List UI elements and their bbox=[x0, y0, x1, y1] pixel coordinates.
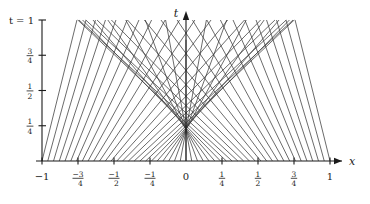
characteristic-line bbox=[220, 20, 289, 161]
characteristic-line bbox=[145, 20, 197, 161]
x-tick-label-numerator: −1 bbox=[144, 170, 155, 179]
x-tick-label-numerator: 3 bbox=[292, 170, 297, 179]
x-tick-label-numerator: −3 bbox=[72, 170, 83, 179]
x-tick-label-denominator: 4 bbox=[150, 179, 155, 188]
characteristic-line bbox=[192, 20, 278, 161]
x-tick-label-denominator: 4 bbox=[292, 179, 297, 188]
characteristic-line bbox=[78, 20, 227, 161]
characteristic-line bbox=[94, 20, 180, 161]
characteristic-line bbox=[140, 20, 293, 161]
t-tick-label-numerator: 3 bbox=[28, 47, 33, 56]
characteristic-line bbox=[79, 20, 232, 161]
t-tick-labels-group: 141234t = 1 bbox=[9, 15, 34, 136]
characteristic-line bbox=[161, 20, 267, 161]
x-tick-label-denominator: 2 bbox=[114, 179, 119, 188]
t-axis-label: t bbox=[174, 7, 179, 20]
characteristic-line bbox=[245, 20, 301, 161]
x-axis-group bbox=[36, 158, 342, 164]
characteristic-line bbox=[286, 20, 324, 161]
characteristic-line bbox=[108, 20, 209, 161]
characteristic-line bbox=[151, 20, 289, 161]
x-axis-label: x bbox=[349, 155, 356, 168]
characteristic-line bbox=[82, 20, 151, 161]
x-tick-label: 0 bbox=[183, 171, 189, 182]
characteristics-figure: −1−34−12−1401412341 141234t = 1 x t bbox=[0, 0, 370, 204]
x-tick-label-numerator: 1 bbox=[256, 170, 261, 179]
t-tick-label-denominator: 4 bbox=[28, 56, 33, 65]
t-tick-label-numerator: 1 bbox=[28, 117, 33, 126]
x-tick-label-numerator: −1 bbox=[108, 170, 119, 179]
x-tick-label: 1 bbox=[327, 171, 333, 182]
characteristic-line bbox=[48, 20, 86, 161]
characteristic-line bbox=[59, 20, 105, 161]
t-axis-arrow-icon bbox=[183, 11, 189, 20]
characteristic-line bbox=[267, 20, 313, 161]
t-tick-label-denominator: 2 bbox=[28, 92, 33, 101]
characteristic-line bbox=[256, 20, 307, 161]
t-axis-group bbox=[183, 11, 189, 161]
t-tick-label-denominator: 4 bbox=[28, 127, 33, 136]
x-tick-label-denominator: 4 bbox=[78, 179, 83, 188]
characteristic-line bbox=[97, 20, 244, 161]
x-tick-label: −1 bbox=[35, 171, 50, 182]
x-axis-arrow-icon bbox=[334, 158, 342, 164]
characteristic-line bbox=[77, 20, 139, 161]
t-axis-top-label: t = 1 bbox=[9, 15, 34, 26]
x-tick-label-denominator: 2 bbox=[256, 179, 261, 188]
t-tick-label-numerator: 1 bbox=[28, 82, 33, 91]
x-tick-labels-group: −1−34−12−1401412341 bbox=[35, 170, 334, 189]
characteristic-line bbox=[233, 20, 295, 161]
x-tick-label-numerator: 1 bbox=[220, 170, 225, 179]
plot-canvas: −1−34−12−1401412341 141234t = 1 x t bbox=[0, 0, 370, 204]
x-tick-label-denominator: 4 bbox=[220, 179, 225, 188]
